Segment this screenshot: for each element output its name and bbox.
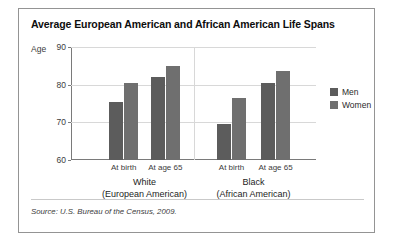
y-tick-label: 70 [57, 117, 66, 127]
legend-item-men: Men [330, 85, 371, 98]
bar-women-1 [166, 66, 180, 160]
legend-item-women: Women [330, 98, 371, 111]
bar-men-3 [261, 83, 275, 160]
y-tick-mark [68, 47, 71, 48]
group-name: White [102, 177, 187, 189]
bar-men-1 [151, 77, 165, 160]
source-note: Source: U.S. Bureau of the Census, 2009. [31, 207, 177, 216]
chart-title: Average European American and African Am… [31, 18, 335, 30]
source-divider [31, 199, 364, 200]
bar-women-0 [124, 83, 138, 160]
group-divider-line [194, 47, 195, 160]
group-name: Black [217, 177, 291, 189]
y-tick-label: 90 [57, 42, 66, 52]
x-group-label: Black(African American) [217, 177, 291, 200]
x-sublabel: At age 65 [148, 163, 182, 172]
legend-label: Women [342, 100, 371, 110]
y-tick-mark [68, 122, 71, 123]
x-sublabel: At age 65 [258, 163, 292, 172]
plot-area: 60708090 At birthAt age 65At birthAt age… [71, 47, 316, 160]
y-tick-label: 60 [57, 155, 66, 165]
x-sublabel: At birth [219, 163, 244, 172]
legend-label: Men [342, 87, 359, 97]
legend-swatch-women-icon [330, 101, 338, 109]
x-sublabel: At birth [111, 163, 136, 172]
legend-swatch-men-icon [330, 88, 338, 96]
y-tick-mark [68, 85, 71, 86]
x-group-label: White(European American) [102, 177, 187, 200]
y-tick-mark [68, 160, 71, 161]
bar-women-2 [232, 98, 246, 160]
bar-women-3 [276, 71, 290, 160]
bar-men-0 [109, 102, 123, 160]
figure-container: Average European American and African Am… [18, 8, 375, 233]
bar-men-2 [217, 124, 231, 160]
y-tick-label: 80 [57, 80, 66, 90]
legend: MenWomen [330, 85, 371, 111]
y-axis-title: Age [31, 44, 46, 54]
